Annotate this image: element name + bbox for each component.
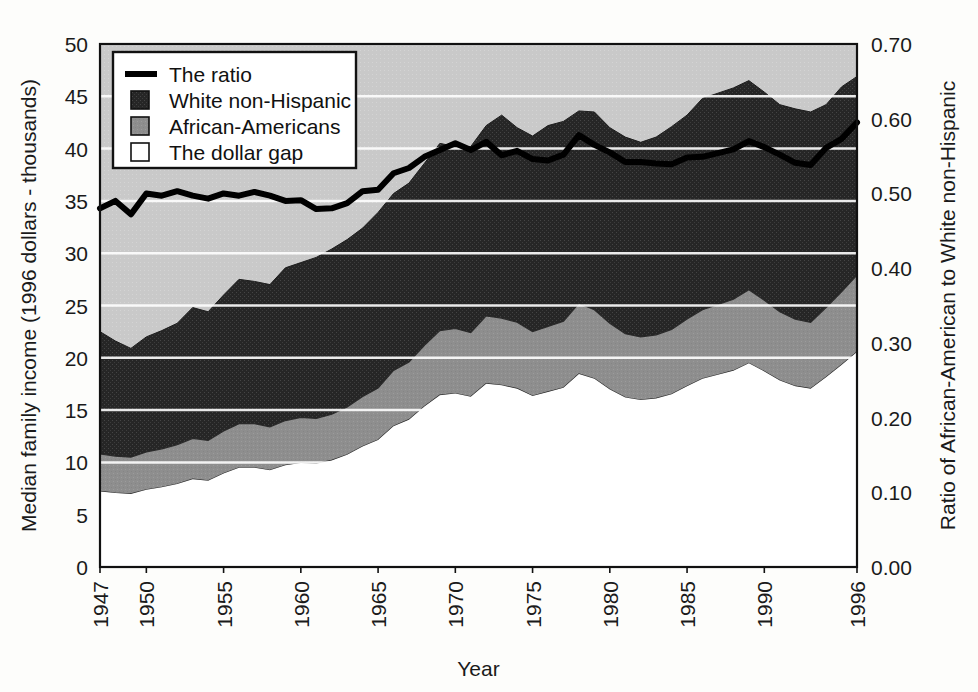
legend-item-label: The dollar gap [169, 141, 303, 164]
legend-marker-square [131, 91, 149, 109]
x-axis-tick-label: 1980 [599, 581, 622, 628]
svg-text:Ratio of African-American to W: Ratio of African-American to White non-H… [936, 81, 959, 530]
y-axis-tick-label: 0 [76, 556, 88, 579]
y-axis-tick-label: 20 [65, 347, 88, 370]
y-axis-tick-label: 40 [65, 138, 88, 161]
svg-text:1980: 1980 [599, 581, 622, 628]
x-axis-title: Year [457, 657, 499, 680]
svg-text:1970: 1970 [444, 581, 467, 628]
y-axis-tick-label: 30 [65, 242, 88, 265]
y2-axis-title: Ratio of African-American to White non-H… [936, 81, 959, 530]
legend-item-label: African-Americans [169, 115, 341, 138]
svg-text:1965: 1965 [367, 581, 390, 628]
legend-item-label: The ratio [169, 63, 252, 86]
y2-axis-tick-label: 0.50 [871, 182, 912, 205]
x-axis-tick-label: 1996 [846, 581, 869, 628]
svg-text:1990: 1990 [753, 581, 776, 628]
legend-item-label: White non-Hispanic [169, 89, 351, 112]
x-axis-tick-label: 1985 [676, 581, 699, 628]
y2-axis-tick-label: 0.20 [871, 407, 912, 430]
y-axis-tick-label: 5 [76, 504, 88, 527]
y-axis-tick-label: 10 [65, 451, 88, 474]
y2-axis-tick-label: 0.00 [871, 556, 912, 579]
x-axis-tick-label: 1975 [522, 581, 545, 628]
income-ratio-area-chart: 051015202530354045500.000.100.200.300.40… [0, 0, 978, 692]
svg-text:1950: 1950 [135, 581, 158, 628]
x-axis-tick-label: 1965 [367, 581, 390, 628]
svg-text:1955: 1955 [213, 581, 236, 628]
x-axis-tick-label: 1960 [290, 581, 313, 628]
legend-marker-square [131, 117, 149, 135]
x-axis-tick-label: 1970 [444, 581, 467, 628]
y2-axis-tick-label: 0.70 [871, 33, 912, 56]
x-axis-tick-label: 1950 [135, 581, 158, 628]
svg-text:Median family income (1996 dol: Median family income (1996 dollars - tho… [17, 79, 40, 532]
y-axis-tick-label: 50 [65, 33, 88, 56]
svg-text:1975: 1975 [522, 581, 545, 628]
svg-text:1985: 1985 [676, 581, 699, 628]
y-axis-tick-label: 35 [65, 190, 88, 213]
x-axis-tick-label: 1947 [89, 581, 112, 628]
legend-marker-square [131, 143, 149, 161]
x-axis-tick-label: 1955 [213, 581, 236, 628]
y2-axis-tick-label: 0.10 [871, 481, 912, 504]
y-axis-title: Median family income (1996 dollars - tho… [17, 79, 40, 532]
y2-axis-tick-label: 0.40 [871, 257, 912, 280]
svg-text:1996: 1996 [846, 581, 869, 628]
svg-text:1960: 1960 [290, 581, 313, 628]
svg-text:1947: 1947 [89, 581, 112, 628]
chart-root: 051015202530354045500.000.100.200.300.40… [0, 0, 978, 692]
y2-axis-tick-label: 0.60 [871, 108, 912, 131]
y-axis-tick-label: 15 [65, 399, 88, 422]
y2-axis-tick-label: 0.30 [871, 332, 912, 355]
x-axis-tick-label: 1990 [753, 581, 776, 628]
y-axis-tick-label: 25 [65, 295, 88, 318]
y-axis-tick-label: 45 [65, 85, 88, 108]
